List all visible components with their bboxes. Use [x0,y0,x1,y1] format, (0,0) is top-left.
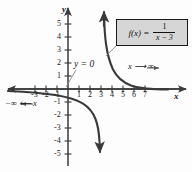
function-formula-box: f(x) = 1 x − 3 [116,19,188,46]
formula-denominator: x − 3 [154,33,175,42]
x-to-neg-infinity-label: −∞ ⟵ x [5,99,37,108]
y-tick-label-neg4: -4 [54,137,61,145]
x-tick-label-7: 7 [143,91,147,99]
y-tick-label-2: 2 [57,59,61,67]
x-tick-label-2: 2 [88,91,92,99]
y-tick-label-1: 1 [57,72,61,80]
y-tick-label-neg3: -3 [54,124,61,132]
x-axis-label: x [174,92,179,101]
formula-lhs: f(x) = [129,28,150,38]
x-tick-label-neg1: -1 [53,91,60,99]
x-tick-label-6: 6 [132,91,136,99]
y-tick-label-neg5: -5 [54,150,61,158]
x-tick-label-1: 1 [77,91,81,99]
y-axis-label: y [62,5,66,14]
x-to-infinity-label: x ⟶ ∞ [128,62,154,71]
y-tick-label-neg2: -2 [54,111,61,119]
y-tick-label-5: 5 [57,20,61,28]
formula-fraction: 1 x − 3 [153,23,175,42]
x-tick-label-neg2: -2 [42,91,49,99]
figure-graph-of-rational-function: y x 5 4 3 2 1 -1 -2 -3 -4 -5 -3 -2 -1 1 … [0,0,192,172]
x-tick-label-3: 3 [99,91,103,99]
formula-numerator: 1 [160,23,168,32]
x-tick-label-4: 4 [110,91,114,99]
x-tick-label-5: 5 [121,91,125,99]
horizontal-asymptote-label: y = 0 [74,60,94,70]
y-tick-label-4: 4 [57,33,61,41]
y-tick-label-neg1: -1 [54,98,61,106]
y-tick-label-3: 3 [57,46,61,54]
